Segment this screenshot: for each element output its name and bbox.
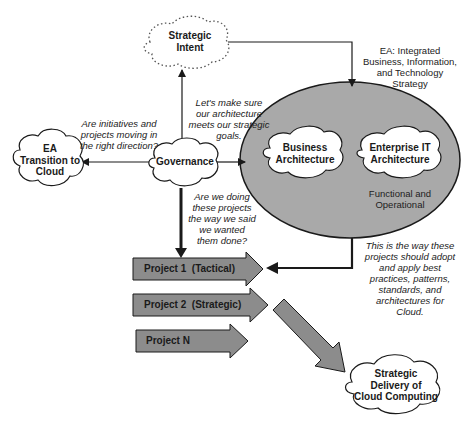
enterprise-it-label: Enterprise IT Architecture bbox=[358, 142, 442, 165]
lets-make-sure-line4: goals. bbox=[186, 131, 272, 142]
ellipse-to-project1-connector bbox=[268, 238, 352, 268]
this-is-the-way-annotation: This is the way these projects should ad… bbox=[356, 241, 464, 317]
ea-integrated-annotation: EA: Integrated Business, Information, an… bbox=[360, 46, 460, 90]
ea-transition-line3: Cloud bbox=[14, 166, 86, 178]
are-initiatives-annotation: Are initiatives and projects moving in t… bbox=[74, 119, 164, 152]
strategic-delivery-line2: Delivery of bbox=[350, 380, 442, 392]
project1-label: Project 1 (Tactical) bbox=[144, 263, 235, 274]
governance-label: Governance bbox=[152, 156, 218, 168]
enterprise-it-line1: Enterprise IT bbox=[358, 142, 442, 154]
business-architecture-label: Business Architecture bbox=[266, 142, 344, 165]
delivery-diagonal-arrow bbox=[273, 299, 345, 372]
intent-to-ea-connector bbox=[228, 42, 352, 86]
are-we-doing-line5: them done? bbox=[186, 236, 258, 247]
enterprise-it-line2: Architecture bbox=[358, 154, 442, 166]
are-we-doing-annotation: Are we doing these projects the way we s… bbox=[186, 192, 258, 247]
strategic-delivery-line3: Cloud Computing bbox=[350, 391, 442, 403]
are-initiatives-line3: the right direction? bbox=[74, 141, 164, 152]
lets-make-sure-annotation: Let's make sure our architecture meets o… bbox=[186, 98, 272, 142]
this-is-the-way-line6: architectures for bbox=[356, 296, 464, 307]
business-architecture-line2: Architecture bbox=[266, 154, 344, 166]
business-architecture-line1: Business bbox=[266, 142, 344, 154]
strategic-intent-line1: Strategic bbox=[160, 30, 220, 42]
this-is-the-way-line7: Cloud. bbox=[356, 307, 464, 318]
project2-label: Project 2 (Strategic) bbox=[144, 299, 241, 310]
ea-integrated-line4: Strategy bbox=[360, 79, 460, 90]
this-is-the-way-line5: standards, and bbox=[356, 285, 464, 296]
functional-operational-label: Functional and Operational bbox=[360, 189, 440, 211]
functional-line2: Operational bbox=[360, 200, 440, 211]
projectN-label: Project N bbox=[146, 335, 190, 346]
strategic-delivery-line1: Strategic bbox=[350, 368, 442, 380]
strategic-intent-label: Strategic Intent bbox=[160, 30, 220, 53]
strategic-delivery-label: Strategic Delivery of Cloud Computing bbox=[350, 368, 442, 403]
strategic-intent-line2: Intent bbox=[160, 42, 220, 54]
ea-transition-line2: Transition to bbox=[14, 155, 86, 167]
